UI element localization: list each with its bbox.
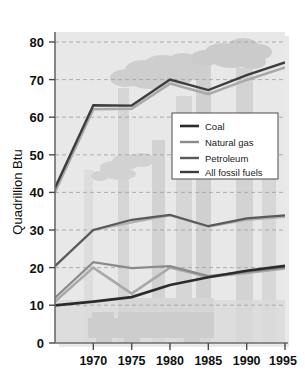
chart-figure: 80 70 60 50 40 30 20 10 0 1970 1975 1980… <box>0 0 305 383</box>
y-tick-label-30: 30 <box>30 223 44 238</box>
y-tick-label-0: 0 <box>37 336 44 351</box>
x-tick-label-1970: 1970 <box>79 354 107 368</box>
y-tick-label-70: 70 <box>30 73 44 88</box>
chart-legend: Coal Natural gas Petroleum All fossil fu… <box>172 113 278 179</box>
y-tick-label-20: 20 <box>30 261 44 276</box>
x-tick-label-1985: 1985 <box>194 354 222 368</box>
legend-label-all-fossil-fuels: All fossil fuels <box>205 167 263 178</box>
y-tick-label-80: 80 <box>30 35 44 50</box>
y-tick-label-60: 60 <box>30 110 44 125</box>
y-tick-label-40: 40 <box>30 185 44 200</box>
x-tick-label-1980: 1980 <box>156 354 184 368</box>
line-chart: 80 70 60 50 40 30 20 10 0 1970 1975 1980… <box>0 0 305 383</box>
y-axis-title: Quadrillion Btu <box>10 149 25 234</box>
y-axis-ticks <box>49 42 55 343</box>
legend-label-natural-gas: Natural gas <box>205 137 254 148</box>
x-tick-label-1990: 1990 <box>233 354 261 368</box>
x-tick-label-1995: 1995 <box>269 354 297 368</box>
legend-label-coal: Coal <box>205 121 225 132</box>
y-tick-label-10: 10 <box>30 298 44 313</box>
legend-label-petroleum: Petroleum <box>205 153 248 164</box>
y-tick-label-50: 50 <box>30 148 44 163</box>
x-tick-label-1975: 1975 <box>118 354 146 368</box>
